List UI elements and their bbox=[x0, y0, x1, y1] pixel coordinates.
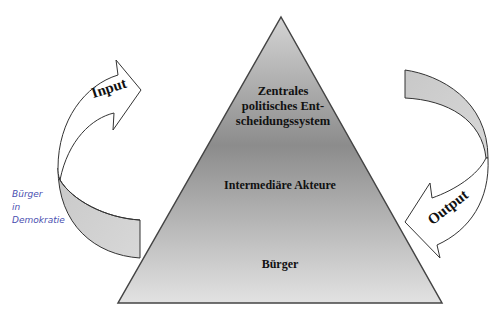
handwritten-line-2: in bbox=[12, 201, 65, 214]
handwritten-annotation: Bürger in Demokratie bbox=[12, 188, 65, 227]
level-bottom-label: Bürger bbox=[230, 257, 330, 272]
level-middle-label: Intermediäre Akteure bbox=[190, 178, 370, 193]
handwritten-line-1: Bürger bbox=[12, 188, 65, 201]
handwritten-line-3: Demokratie bbox=[12, 214, 65, 227]
level-top-line-3: scheidungssystem bbox=[205, 114, 361, 129]
level-top-label: Zentrales politisches Ent- scheidungssys… bbox=[205, 84, 361, 129]
output-arrow bbox=[405, 70, 488, 258]
level-top-line-2: politisches Ent- bbox=[205, 99, 361, 114]
level-top-line-1: Zentrales bbox=[205, 84, 361, 99]
